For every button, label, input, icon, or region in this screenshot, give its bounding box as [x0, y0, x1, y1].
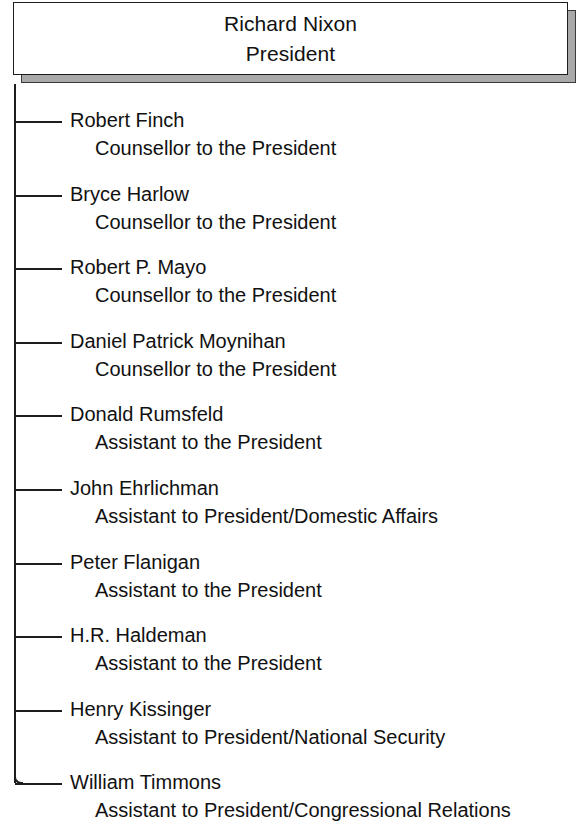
child-title: Assistant to President/National Security: [95, 725, 445, 749]
root-node-face: Richard Nixon President: [13, 2, 568, 75]
child-connector-line: [15, 489, 62, 491]
child-name: William Timmons: [70, 770, 221, 794]
root-node-name: Richard Nixon: [224, 9, 357, 39]
child-title: Counsellor to the President: [95, 136, 336, 160]
org-chart: Richard Nixon President Robert FinchCoun…: [0, 0, 586, 837]
child-name: Henry Kissinger: [70, 697, 211, 721]
child-connector-line: [15, 563, 62, 565]
child-connector-line: [15, 268, 62, 270]
child-connector-line: [15, 195, 62, 197]
child-name: Bryce Harlow: [70, 182, 189, 206]
child-title: Assistant to President/Congressional Rel…: [95, 798, 511, 822]
child-title: Counsellor to the President: [95, 357, 336, 381]
child-name: H.R. Haldeman: [70, 623, 207, 647]
child-connector-line: [15, 783, 62, 785]
child-name: Robert Finch: [70, 108, 185, 132]
child-connector-line: [15, 415, 62, 417]
child-connector-line: [15, 710, 62, 712]
child-title: Counsellor to the President: [95, 210, 336, 234]
root-node-president[interactable]: Richard Nixon President: [13, 2, 568, 75]
child-title: Assistant to President/Domestic Affairs: [95, 504, 438, 528]
child-name: John Ehrlichman: [70, 476, 219, 500]
child-title: Assistant to the President: [95, 651, 322, 675]
root-node-title: President: [246, 39, 336, 69]
tree-trunk-line: [14, 84, 16, 783]
child-connector-line: [15, 121, 62, 123]
child-title: Assistant to the President: [95, 578, 322, 602]
child-title: Assistant to the President: [95, 430, 322, 454]
child-connector-line: [15, 636, 62, 638]
child-title: Counsellor to the President: [95, 283, 336, 307]
child-name: Robert P. Mayo: [70, 255, 206, 279]
child-name: Peter Flanigan: [70, 550, 200, 574]
child-name: Daniel Patrick Moynihan: [70, 329, 286, 353]
child-connector-line: [15, 342, 62, 344]
child-name: Donald Rumsfeld: [70, 402, 223, 426]
